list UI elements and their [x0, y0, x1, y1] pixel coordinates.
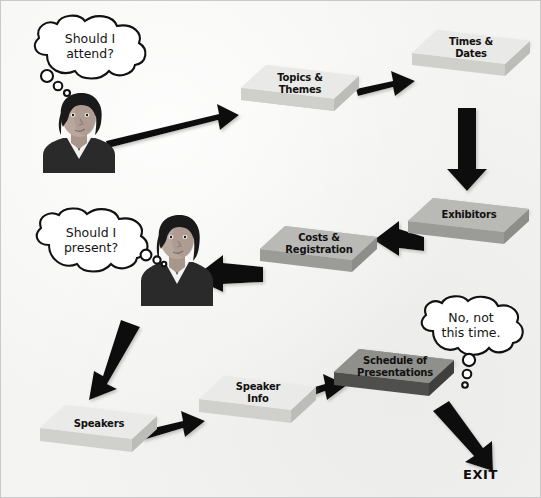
box-costs-registration[interactable]: Costs & Registration	[257, 214, 381, 278]
box-speakers[interactable]: Speakers	[37, 393, 161, 457]
box-times-dates[interactable]: Times & Dates	[409, 19, 533, 81]
box-speaker-info[interactable]: Speaker Info	[196, 364, 320, 428]
bubble-no-not-this-time: No, not this time.	[415, 297, 535, 393]
arrow-person2-to-speakers	[89, 320, 140, 400]
flowchart-canvas: Topics & Themes Times & Dates	[0, 0, 541, 498]
box-exhibitors[interactable]: Exhibitors	[405, 187, 533, 249]
box-topics-themes[interactable]: Topics & Themes	[238, 55, 362, 115]
bubble-should-i-present: Should I present?	[29, 209, 167, 281]
exit-label: EXIT	[463, 467, 498, 482]
arrow-times-to-exhibitors	[447, 108, 487, 191]
arrow-schedule-to-exit	[433, 401, 493, 471]
bubble-should-i-attend: Should I attend?	[25, 13, 157, 113]
arrow-topics-to-times	[356, 71, 415, 96]
